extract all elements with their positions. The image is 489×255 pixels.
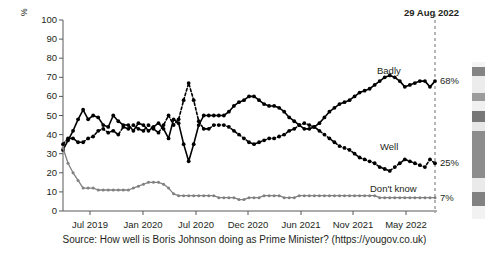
data-point (237, 133, 241, 137)
data-point (157, 181, 160, 184)
data-point (307, 123, 311, 127)
data-point (81, 108, 85, 112)
data-point (418, 79, 422, 83)
data-point (317, 121, 321, 125)
data-point (207, 127, 211, 131)
data-point (383, 167, 387, 171)
data-point (323, 116, 327, 120)
event-date-annotation: 29 Aug 2022 (404, 7, 459, 18)
data-point (343, 146, 347, 150)
data-point (96, 129, 100, 133)
data-point (293, 196, 296, 199)
data-point (127, 188, 130, 191)
data-point (428, 85, 432, 89)
data-point (373, 83, 377, 87)
data-point (297, 123, 301, 127)
data-point (147, 129, 151, 133)
data-point (126, 123, 130, 127)
data-point (197, 119, 201, 123)
data-point (111, 129, 115, 133)
data-point (273, 194, 276, 197)
data-point (247, 140, 251, 144)
data-point (142, 129, 146, 133)
data-point (187, 159, 191, 163)
data-point (358, 194, 361, 197)
data-point (363, 89, 367, 93)
data-point (202, 194, 205, 197)
data-point (348, 98, 352, 102)
data-point (323, 194, 326, 197)
data-point (167, 187, 170, 190)
data-point (388, 169, 392, 173)
data-point (312, 125, 316, 129)
data-point (101, 123, 105, 127)
data-point (263, 194, 266, 197)
data-point (77, 179, 80, 182)
plot-area (0, 0, 489, 255)
data-point (258, 196, 261, 199)
data-point (107, 188, 110, 191)
data-point (348, 194, 351, 197)
data-point (418, 196, 421, 199)
data-point (358, 156, 362, 160)
data-point (167, 137, 171, 141)
data-point (111, 114, 115, 118)
data-point (126, 127, 130, 131)
data-point (423, 79, 427, 83)
data-point (81, 140, 85, 144)
data-point (408, 83, 412, 87)
data-point (82, 187, 85, 190)
data-point (172, 192, 175, 195)
data-point (217, 114, 221, 118)
data-point (433, 79, 437, 83)
data-point (257, 98, 261, 102)
data-point (242, 137, 246, 141)
data-point (277, 135, 281, 139)
data-point (378, 196, 381, 199)
data-point (162, 183, 165, 186)
data-point (76, 140, 80, 144)
data-point (242, 98, 246, 102)
data-point (76, 117, 80, 121)
data-point (61, 142, 65, 146)
data-point (338, 144, 342, 148)
data-point (278, 194, 281, 197)
data-point (217, 196, 220, 199)
source-caption: Source: How well is Boris Johnson doing … (0, 234, 489, 245)
data-point (86, 117, 90, 121)
data-point (318, 194, 321, 197)
data-point (232, 196, 235, 199)
data-point (222, 196, 225, 199)
data-point (413, 161, 417, 165)
data-point (292, 127, 296, 131)
data-point (388, 196, 391, 199)
data-point (262, 102, 266, 106)
data-point (398, 196, 401, 199)
series-label-badly: Badly (377, 66, 401, 76)
data-point (403, 85, 407, 89)
data-point (92, 187, 95, 190)
data-point (413, 81, 417, 85)
data-point (177, 194, 180, 197)
data-point (232, 129, 236, 133)
data-point (373, 161, 377, 165)
data-point (112, 188, 115, 191)
data-point (137, 185, 140, 188)
data-point (287, 129, 291, 133)
data-point (71, 137, 75, 141)
data-point (157, 131, 161, 135)
data-point (363, 194, 366, 197)
data-point (187, 81, 191, 85)
data-point (172, 123, 176, 127)
endpoint-value-well: 25% (440, 159, 459, 169)
endpoint-value-badly: 68% (440, 76, 459, 86)
data-point (418, 163, 422, 167)
data-point (252, 142, 256, 146)
data-point (307, 127, 311, 131)
data-point (207, 194, 210, 197)
data-point (313, 194, 316, 197)
data-point (403, 158, 407, 162)
data-point (277, 106, 281, 110)
data-point (363, 158, 367, 162)
data-point (197, 194, 200, 197)
